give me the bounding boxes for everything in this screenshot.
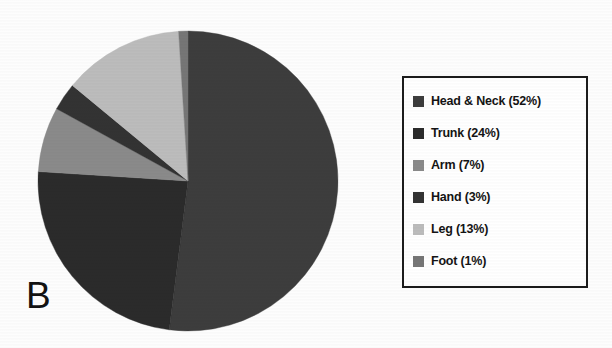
- legend-swatch-foot: [413, 256, 424, 267]
- panel-label: B: [26, 277, 51, 314]
- legend-label-foot: Foot (1%): [431, 254, 486, 268]
- legend-label-leg: Leg (13%): [431, 222, 488, 236]
- legend-item-head-neck[interactable]: Head & Neck (52%): [404, 85, 586, 117]
- legend-item-hand[interactable]: Hand (3%): [404, 181, 586, 213]
- legend-swatch-trunk: [413, 128, 424, 139]
- legend-label-arm: Arm (7%): [431, 158, 484, 172]
- legend-box: Head & Neck (52%) Trunk (24%) Arm (7%) H…: [402, 76, 588, 288]
- legend-swatch-arm: [413, 160, 424, 171]
- legend-swatch-leg: [413, 224, 424, 235]
- legend-item-leg[interactable]: Leg (13%): [404, 213, 586, 245]
- legend-item-trunk[interactable]: Trunk (24%): [404, 117, 586, 149]
- legend-label-trunk: Trunk (24%): [431, 126, 500, 140]
- pie-slice-trunk[interactable]: [38, 172, 188, 330]
- figure-panel-b: B Head & Neck (52%) Trunk (24%) Arm (7%)…: [0, 0, 612, 348]
- legend-item-foot[interactable]: Foot (1%): [404, 245, 586, 277]
- pie-chart-svg: [37, 30, 339, 332]
- legend-swatch-head-neck: [413, 96, 424, 107]
- pie-chart: [37, 30, 339, 332]
- pie-slice-group: [38, 31, 338, 331]
- legend-label-hand: Hand (3%): [431, 190, 490, 204]
- pie-slice-head-neck[interactable]: [169, 31, 338, 331]
- legend-label-head-neck: Head & Neck (52%): [431, 94, 541, 108]
- legend-item-arm[interactable]: Arm (7%): [404, 149, 586, 181]
- legend-swatch-hand: [413, 192, 424, 203]
